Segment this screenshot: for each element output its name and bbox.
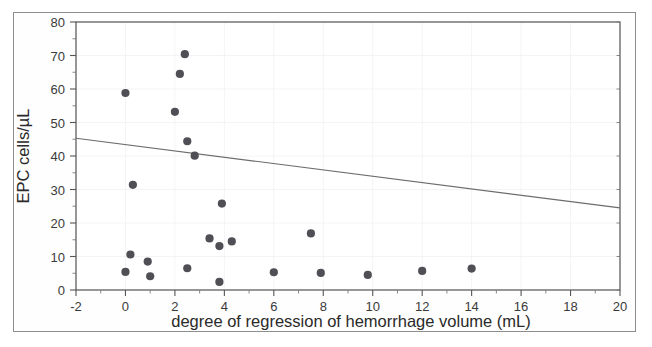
data-point [270,268,278,276]
x-axis-ticks [76,290,620,296]
data-point [205,234,213,242]
x-tick-label: -2 [70,299,82,314]
data-point [176,70,184,78]
x-axis-title: degree of regression of hemorrhage volum… [171,312,531,330]
data-point [364,271,372,279]
data-point [191,152,199,160]
y-axis-title: EPC cells/µL [14,109,32,204]
y-tick-label: 10 [51,250,65,265]
data-point [181,50,189,58]
data-point [418,267,426,275]
data-point [129,181,137,189]
data-point [468,264,476,272]
data-point [183,137,191,145]
y-tick-label: 80 [51,15,65,30]
y-axis-tick-labels: 01020304050607080 [51,15,65,298]
data-point [146,272,154,280]
data-point [307,229,315,237]
data-point [228,237,236,245]
data-point [215,278,223,286]
figure-root: -202468101214161820 01020304050607080 de… [0,0,652,347]
data-point [183,264,191,272]
data-point [317,269,325,277]
y-tick-label: 70 [51,49,65,64]
data-point [121,268,129,276]
data-point [171,108,179,116]
scatter-chart: -202468101214161820 01020304050607080 de… [0,0,652,347]
y-tick-label: 30 [51,183,65,198]
y-tick-label: 0 [58,283,65,298]
x-tick-label: 0 [122,299,129,314]
data-point [144,257,152,265]
y-tick-label: 50 [51,116,65,131]
y-tick-label: 40 [51,149,65,164]
data-point [121,89,129,97]
data-point [126,250,134,258]
data-point [218,199,226,207]
data-point [215,242,223,250]
y-tick-label: 20 [51,216,65,231]
x-tick-label: 18 [563,299,577,314]
x-tick-label: 20 [613,299,627,314]
y-tick-label: 60 [51,82,65,97]
